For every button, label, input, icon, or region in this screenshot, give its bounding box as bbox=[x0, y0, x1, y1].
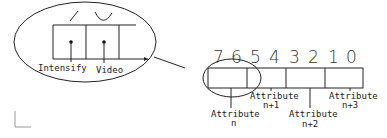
callout-connector bbox=[154, 57, 185, 68]
svg-text:n+2: n+2 bbox=[302, 119, 318, 129]
svg-text:4: 4 bbox=[269, 47, 280, 67]
label-video: Video bbox=[96, 65, 123, 75]
svg-text:n+3: n+3 bbox=[342, 100, 358, 110]
svg-text:6: 6 bbox=[231, 47, 242, 67]
label-intensify: Intensify bbox=[38, 63, 87, 73]
attribute-box bbox=[208, 68, 363, 88]
svg-text:1: 1 bbox=[328, 47, 339, 67]
svg-text:3: 3 bbox=[289, 47, 300, 67]
svg-text:n: n bbox=[231, 118, 236, 128]
svg-text:Attribute: Attribute bbox=[289, 109, 338, 119]
field-labels: Attribute n Attribute n+1 Attribute n+2 … bbox=[211, 88, 378, 129]
zoom-callout: Intensify Video bbox=[14, 2, 156, 82]
bit-numbers: 7 6 5 4 3 2 1 0 bbox=[213, 47, 357, 67]
svg-text:2: 2 bbox=[308, 47, 319, 67]
attribute-diagram: Intensify Video 7 6 5 4 3 2 1 0 Attribut… bbox=[0, 0, 387, 138]
svg-text:7: 7 bbox=[213, 47, 224, 67]
svg-text:0: 0 bbox=[346, 47, 357, 67]
corner-mark bbox=[15, 111, 31, 127]
svg-text:n+1: n+1 bbox=[263, 100, 279, 110]
